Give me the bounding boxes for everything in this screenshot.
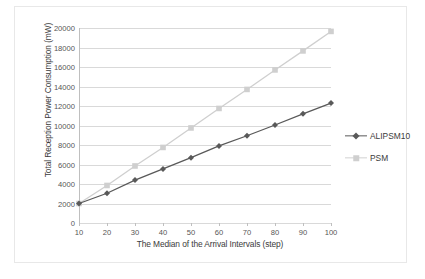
legend-item-psm[interactable]: PSM — [345, 147, 420, 169]
x-tick-mark — [107, 223, 108, 226]
y-axis-title: Total Reception Power Consumption (mW) — [43, 0, 53, 205]
chart-container: Total Reception Power Consumption (mW) T… — [14, 6, 407, 263]
y-tick-label: 8000 — [58, 141, 75, 150]
y-tick-label: 0 — [71, 219, 75, 228]
y-tick-label: 12000 — [54, 102, 75, 111]
chart-legend: ALIPSM10 PSM — [345, 125, 420, 169]
x-tick-label: 50 — [187, 228, 195, 237]
x-axis-title: The Median of the Arrival Intervals (ste… — [55, 239, 365, 249]
x-tick-mark — [219, 223, 220, 226]
data-point-psm — [300, 48, 306, 54]
data-point-psm — [244, 87, 250, 93]
x-tick-label: 80 — [271, 228, 279, 237]
data-point-alipsm10 — [104, 190, 110, 196]
y-tick-label: 6000 — [58, 160, 75, 169]
data-point-psm — [132, 163, 138, 169]
y-tick-label: 16000 — [54, 63, 75, 72]
data-point-psm — [216, 106, 222, 112]
x-tick-label: 30 — [131, 228, 139, 237]
series-lines — [79, 28, 331, 223]
y-tick-label: 20000 — [54, 24, 75, 33]
data-point-alipsm10 — [216, 143, 222, 149]
legend-marker-diamond-icon — [345, 131, 367, 141]
legend-label-alipsm10: ALIPSM10 — [370, 131, 410, 141]
gridline — [79, 223, 331, 224]
data-point-alipsm10 — [328, 100, 334, 106]
x-tick-label: 60 — [215, 228, 223, 237]
legend-item-alipsm10[interactable]: ALIPSM10 — [345, 125, 420, 147]
data-point-psm — [104, 183, 110, 189]
data-point-alipsm10 — [132, 177, 138, 183]
data-point-psm — [160, 145, 166, 151]
x-tick-label: 40 — [159, 228, 167, 237]
y-tick-label: 18000 — [54, 43, 75, 52]
x-tick-label: 10 — [75, 228, 83, 237]
legend-marker-square-icon — [345, 153, 367, 163]
legend-label-psm: PSM — [370, 153, 388, 163]
x-tick-mark — [303, 223, 304, 226]
x-tick-label: 90 — [299, 228, 307, 237]
x-tick-mark — [163, 223, 164, 226]
data-point-alipsm10 — [160, 166, 166, 172]
data-point-psm — [272, 67, 278, 73]
x-tick-mark — [275, 223, 276, 226]
x-tick-mark — [135, 223, 136, 226]
x-tick-mark — [247, 223, 248, 226]
plot-area: 0200040006000800010000120001400016000180… — [79, 28, 331, 223]
data-point-alipsm10 — [188, 155, 194, 161]
x-tick-label: 100 — [325, 228, 338, 237]
x-tick-label: 70 — [243, 228, 251, 237]
x-tick-label: 20 — [103, 228, 111, 237]
x-tick-mark — [191, 223, 192, 226]
y-tick-label: 4000 — [58, 180, 75, 189]
y-tick-label: 10000 — [54, 121, 75, 130]
data-point-alipsm10 — [300, 111, 306, 117]
y-tick-label: 2000 — [58, 199, 75, 208]
x-tick-mark — [79, 223, 80, 226]
y-tick-label: 14000 — [54, 82, 75, 91]
data-point-psm — [328, 29, 334, 35]
data-point-psm — [188, 125, 194, 131]
x-tick-mark — [331, 223, 332, 226]
data-point-alipsm10 — [244, 133, 250, 139]
data-point-alipsm10 — [272, 122, 278, 128]
